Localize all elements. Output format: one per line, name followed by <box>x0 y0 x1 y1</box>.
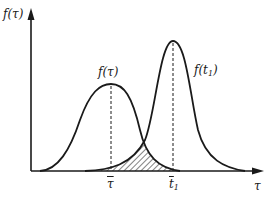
curve-f-tau <box>40 84 180 171</box>
diagram-graphics <box>0 0 273 197</box>
t1-bar-marker: t1 <box>169 178 179 192</box>
curve-f-t1-label-close: ) <box>213 63 218 77</box>
curve-f-tau-label: f(τ) <box>98 66 118 78</box>
curve-f-t1-label: f(t1) <box>194 64 218 78</box>
x-axis-arrow-icon <box>252 168 264 175</box>
y-axis-label: f(τ) <box>3 8 23 20</box>
tau-bar-marker: τ <box>107 178 114 190</box>
density-diagram: f(τ) τ f(τ) f(t1) τ t1 <box>0 0 273 197</box>
curve-f-t1 <box>85 41 245 171</box>
t1-bar-marker-sub: 1 <box>174 183 179 192</box>
overlap-hatch <box>85 41 245 171</box>
x-axis-label: τ <box>254 180 261 192</box>
curve-f-t1-label-main: f(t <box>194 63 208 77</box>
y-axis-arrow-icon <box>28 8 35 20</box>
